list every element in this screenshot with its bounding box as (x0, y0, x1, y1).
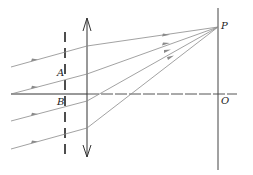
label-p: P (220, 20, 228, 31)
optics-diagram: P O A B (0, 0, 253, 175)
lens-icon (83, 18, 91, 157)
light-rays (11, 27, 218, 149)
label-b: B (56, 96, 64, 107)
label-o: O (221, 95, 229, 106)
label-a: A (56, 67, 64, 78)
